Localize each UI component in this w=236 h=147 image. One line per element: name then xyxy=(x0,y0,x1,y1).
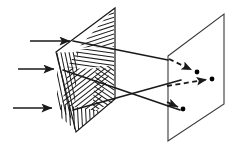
hatch-region-upper-triangle-right xyxy=(9,0,172,78)
image-point-lower-dot xyxy=(181,107,186,112)
diffracted-rays-group xyxy=(63,41,181,110)
image-point-upper-dot xyxy=(195,70,200,75)
image-point-middle-dot xyxy=(210,77,215,82)
optics-ray-diagram xyxy=(0,0,236,147)
image-points-group xyxy=(181,70,215,112)
screen-plane-outline xyxy=(168,14,224,141)
hatched-plane-group xyxy=(0,0,196,147)
hatch-region-center-diagonal-b xyxy=(20,0,196,147)
hatch-region-lower-vertical-band xyxy=(49,89,104,147)
figure-container xyxy=(0,0,236,147)
image-point-upper-arrow xyxy=(169,59,192,70)
diffracted-ray-cross-down xyxy=(63,70,180,110)
